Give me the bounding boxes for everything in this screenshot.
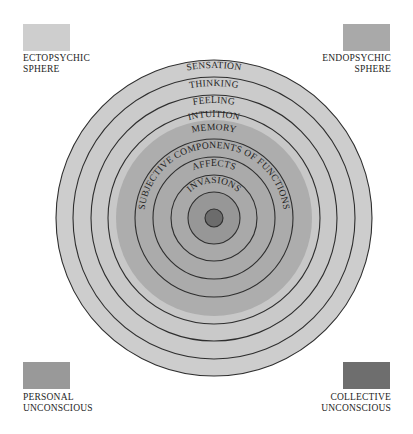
rings — [56, 60, 372, 376]
core-collective-unconscious — [205, 209, 223, 227]
psyche-diagram: SENSATION THINKING FEELING INTUITION MEM… — [0, 0, 413, 434]
